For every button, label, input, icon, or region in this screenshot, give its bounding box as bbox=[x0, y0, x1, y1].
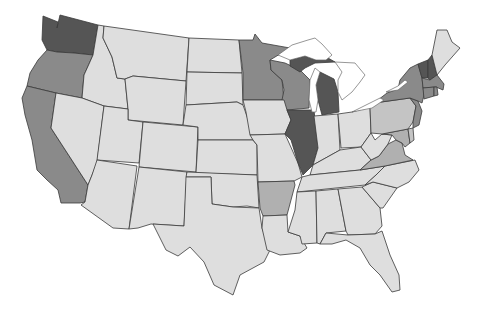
lake-huron bbox=[335, 62, 365, 100]
state-WY[interactable] bbox=[125, 76, 186, 125]
us-choropleth-map bbox=[0, 0, 481, 315]
state-NM[interactable] bbox=[129, 167, 187, 229]
state-RI[interactable] bbox=[434, 87, 438, 96]
state-WA[interactable] bbox=[42, 15, 98, 55]
states-layer bbox=[22, 15, 460, 295]
state-FL[interactable] bbox=[320, 231, 400, 292]
state-SD[interactable] bbox=[186, 72, 243, 105]
state-AR[interactable] bbox=[258, 181, 295, 216]
state-IA[interactable] bbox=[243, 100, 291, 135]
state-NY[interactable] bbox=[374, 64, 424, 103]
state-MT[interactable] bbox=[103, 26, 189, 81]
state-KS[interactable] bbox=[196, 140, 257, 175]
state-ME[interactable] bbox=[432, 30, 460, 75]
state-MI[interactable] bbox=[316, 72, 339, 115]
state-CO[interactable] bbox=[139, 122, 198, 172]
state-CT[interactable] bbox=[423, 87, 434, 99]
state-ND[interactable] bbox=[187, 38, 242, 73]
